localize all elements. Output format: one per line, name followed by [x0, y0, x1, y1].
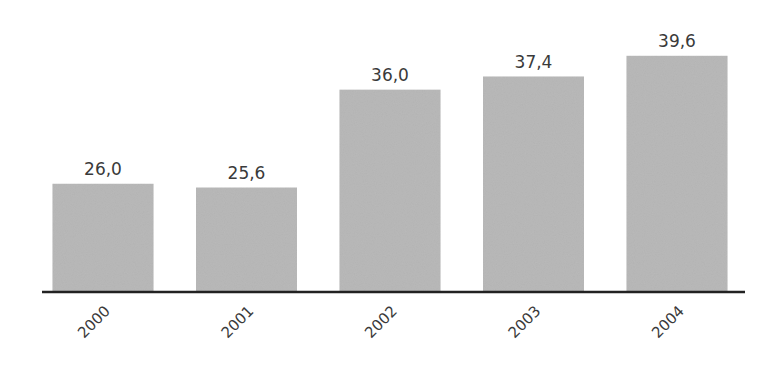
value-label-2000: 26,0: [84, 159, 122, 179]
value-label-2002: 36,0: [371, 65, 409, 85]
value-label-2001: 25,6: [228, 163, 266, 183]
x-tick-label-2001: 2001: [218, 302, 258, 342]
value-label-2003: 37,4: [515, 52, 553, 72]
bar-2000: [53, 184, 154, 292]
x-tick-labels-group: 20002001200220032004: [74, 302, 688, 342]
bar-2001: [196, 188, 297, 292]
x-tick-label-2002: 2002: [361, 302, 401, 342]
x-tick-label-2000: 2000: [74, 302, 114, 342]
x-tick-label-2004: 2004: [648, 302, 688, 342]
value-label-2004: 39,6: [658, 31, 696, 51]
x-tick-label-2003: 2003: [505, 302, 545, 342]
bar-2003: [483, 77, 584, 292]
bars-group: [53, 56, 728, 292]
bar-2002: [340, 90, 441, 292]
bar-2004: [627, 56, 728, 292]
bar-chart: 26,025,636,037,439,6 2000200120022003200…: [0, 0, 773, 366]
